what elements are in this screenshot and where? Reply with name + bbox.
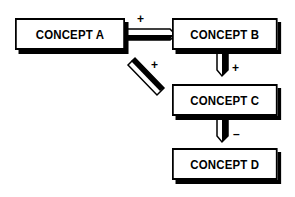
sign-a-to-c: + (151, 59, 158, 71)
sign-a-to-b: + (137, 13, 144, 25)
arrow-c-to-d (217, 118, 228, 142)
concept-c-box: CONCEPT C (172, 84, 278, 116)
concept-a-box: CONCEPT A (15, 18, 125, 50)
sign-c-to-d: – (233, 128, 240, 140)
concept-b-box: CONCEPT B (172, 18, 278, 50)
arrow-a-to-c (128, 58, 164, 95)
arrow-b-to-c (217, 52, 228, 76)
sign-b-to-c: + (232, 62, 239, 74)
arrow-a-to-b (126, 29, 176, 40)
concept-d-box: CONCEPT D (172, 148, 278, 180)
